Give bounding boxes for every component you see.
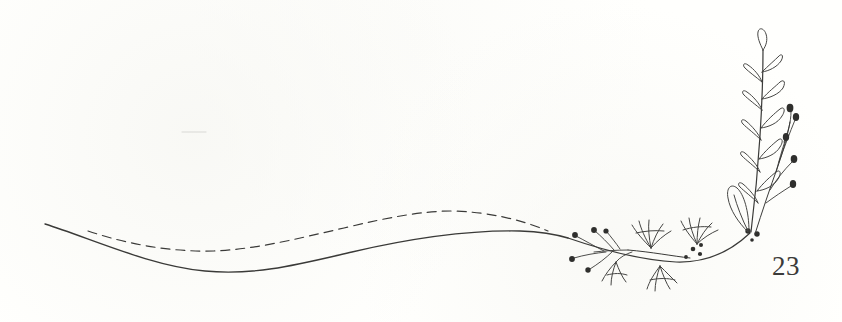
fan-flower-lower xyxy=(647,266,677,291)
dashed-s-curve xyxy=(88,211,548,251)
berry-stem xyxy=(755,104,799,234)
leafy-stem xyxy=(739,29,785,232)
page-canvas: .ink { fill:none; stroke:#3a3a38; stroke… xyxy=(0,0,842,322)
scatter-dots xyxy=(684,228,760,259)
berry-spray xyxy=(569,227,628,273)
cluster-stem xyxy=(568,233,750,262)
solid-s-curve xyxy=(45,224,568,272)
fan-flower-upper-right xyxy=(681,218,718,244)
botanical-flourish-illustration: .ink { fill:none; stroke:#3a3a38; stroke… xyxy=(0,0,842,322)
large-leaf xyxy=(728,186,749,232)
page-number: 23 xyxy=(762,253,810,280)
fan-flower-upper-left xyxy=(632,220,671,248)
